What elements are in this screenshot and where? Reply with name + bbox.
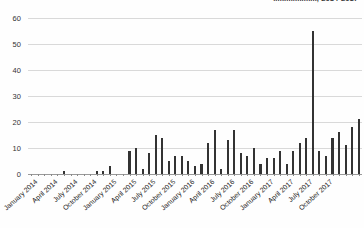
x-tick-mark xyxy=(339,174,340,176)
bar xyxy=(128,151,130,174)
bar xyxy=(155,135,157,174)
x-tick-mark xyxy=(38,174,39,176)
x-tick-mark xyxy=(71,174,72,176)
bar xyxy=(286,164,288,174)
x-tick-mark xyxy=(51,174,52,176)
bar xyxy=(299,143,301,174)
x-tick-mark xyxy=(44,174,45,176)
bar xyxy=(187,161,189,174)
x-tick-mark xyxy=(195,174,196,176)
x-tick-mark xyxy=(319,174,320,176)
y-tick-label: 0 xyxy=(17,170,21,179)
x-tick-mark xyxy=(202,174,203,176)
x-tick-mark xyxy=(260,174,261,176)
x-tick-mark xyxy=(208,174,209,176)
bar xyxy=(305,138,307,174)
y-tick-label: 60 xyxy=(12,14,21,23)
x-tick-mark xyxy=(267,174,268,176)
bar xyxy=(109,166,111,174)
y-tick-label: 30 xyxy=(12,92,21,101)
x-tick-mark xyxy=(156,174,157,176)
chart-title: ...................., 2014-2017 xyxy=(273,0,358,3)
x-tick-mark xyxy=(90,174,91,176)
y-tick-label: 50 xyxy=(12,40,21,49)
x-tick-mark xyxy=(359,174,360,176)
x-tick-mark xyxy=(110,174,111,176)
x-tick-mark xyxy=(162,174,163,176)
x-tick-mark xyxy=(241,174,242,176)
bar xyxy=(135,148,137,174)
bar-series xyxy=(28,18,362,174)
x-tick-mark xyxy=(77,174,78,176)
bar xyxy=(259,164,261,174)
x-tick-mark xyxy=(306,174,307,176)
bar xyxy=(325,156,327,174)
bar xyxy=(345,145,347,174)
x-tick-mark xyxy=(280,174,281,176)
x-tick-mark xyxy=(188,174,189,176)
x-tick-mark xyxy=(254,174,255,176)
x-tick-mark xyxy=(64,174,65,176)
x-tick-mark xyxy=(182,174,183,176)
bar xyxy=(253,148,255,174)
x-tick-mark xyxy=(228,174,229,176)
y-tick-label: 10 xyxy=(12,144,21,153)
x-tick-mark xyxy=(352,174,353,176)
bar xyxy=(200,164,202,174)
x-tick-mark xyxy=(31,174,32,176)
plot-area xyxy=(28,18,362,174)
x-tick-mark xyxy=(333,174,334,176)
bar xyxy=(351,127,353,174)
x-tick-mark xyxy=(175,174,176,176)
x-tick-mark xyxy=(293,174,294,176)
bar xyxy=(246,156,248,174)
bar xyxy=(227,140,229,174)
x-tick-mark xyxy=(234,174,235,176)
x-tick-mark xyxy=(247,174,248,176)
x-tick-mark xyxy=(300,174,301,176)
bar xyxy=(338,132,340,174)
x-tick-mark xyxy=(84,174,85,176)
bar xyxy=(318,151,320,174)
bar xyxy=(266,158,268,174)
x-tick-mark xyxy=(97,174,98,176)
bar xyxy=(292,151,294,174)
bar xyxy=(273,158,275,174)
y-axis-labels: 0102030405060 xyxy=(0,18,26,174)
bar xyxy=(279,151,281,174)
x-tick-mark xyxy=(221,174,222,176)
x-tick-mark xyxy=(215,174,216,176)
bar xyxy=(233,130,235,174)
bar xyxy=(148,153,150,174)
x-tick-mark xyxy=(313,174,314,176)
x-tick-mark xyxy=(57,174,58,176)
bar xyxy=(214,130,216,174)
x-tick-mark xyxy=(346,174,347,176)
bar xyxy=(194,166,196,174)
x-tick-mark xyxy=(143,174,144,176)
x-tick-mark xyxy=(149,174,150,176)
x-tick-mark xyxy=(136,174,137,176)
x-tick-mark xyxy=(123,174,124,176)
bar xyxy=(174,156,176,174)
bar xyxy=(207,143,209,174)
x-tick-mark xyxy=(274,174,275,176)
bar xyxy=(161,138,163,174)
bar xyxy=(168,161,170,174)
bar xyxy=(312,31,314,174)
x-tick-mark xyxy=(326,174,327,176)
x-tick-mark xyxy=(103,174,104,176)
bar-chart: ...................., 2014-2017 01020304… xyxy=(0,0,364,228)
y-tick-label: 40 xyxy=(12,66,21,75)
x-tick-mark xyxy=(287,174,288,176)
bar xyxy=(358,119,360,174)
x-tick-mark xyxy=(116,174,117,176)
x-axis-labels: January 2014April 2014July 2014October 2… xyxy=(28,174,362,228)
x-tick-mark xyxy=(130,174,131,176)
bar xyxy=(181,156,183,174)
y-tick-label: 20 xyxy=(12,118,21,127)
bar xyxy=(331,138,333,174)
bar xyxy=(240,153,242,174)
x-tick-mark xyxy=(169,174,170,176)
